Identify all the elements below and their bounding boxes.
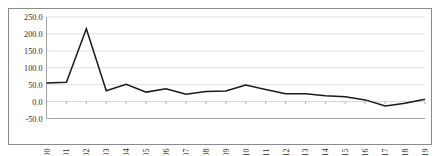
x-tick-label: 2010 bbox=[242, 149, 251, 156]
x-tick-label: 2017 bbox=[381, 149, 390, 156]
x-tick-label: 2003 bbox=[102, 149, 111, 156]
chart-figure: 250.0200.0150.0100.050.00.0-50.0 2000200… bbox=[0, 0, 441, 155]
x-tick-label: 2008 bbox=[202, 149, 211, 156]
x-tick-label: 2019 bbox=[421, 149, 430, 156]
y-tick-label: 50.0 bbox=[28, 81, 42, 90]
x-tick-label: 2000 bbox=[43, 149, 52, 156]
x-tick-label: 2012 bbox=[282, 149, 291, 156]
y-tick-label: 200.0 bbox=[24, 30, 42, 39]
x-tick-label: 2007 bbox=[182, 149, 191, 156]
y-tick-label: 0.0 bbox=[32, 98, 42, 107]
line-chart: 250.0200.0150.0100.050.00.0-50.0 2000200… bbox=[0, 0, 441, 155]
x-tick-label: 2011 bbox=[262, 149, 271, 156]
chart-svg: 250.0200.0150.0100.050.00.0-50.0 2000200… bbox=[0, 0, 441, 155]
x-tick-label: 2005 bbox=[142, 149, 151, 156]
x-tick-label: 2016 bbox=[361, 149, 370, 156]
x-tick-label: 2004 bbox=[122, 149, 131, 156]
y-tick-label: 150.0 bbox=[24, 47, 42, 56]
x-tick-label: 2014 bbox=[321, 149, 330, 156]
x-tick-label: 2006 bbox=[162, 149, 171, 156]
x-tick-label: 2018 bbox=[401, 149, 410, 156]
x-tick-label: 2002 bbox=[82, 149, 91, 156]
x-tick-label: 2013 bbox=[301, 149, 310, 156]
y-axis-tick-labels: 250.0200.0150.0100.050.00.0-50.0 bbox=[24, 13, 42, 124]
x-axis-tick-labels: 2000200120022003200420052006200720082009… bbox=[43, 149, 431, 156]
gridlines-group bbox=[47, 17, 426, 102]
x-tick-label: 2001 bbox=[62, 149, 71, 156]
y-tick-label: -50.0 bbox=[25, 115, 42, 124]
y-tick-label: 100.0 bbox=[24, 64, 42, 73]
y-tick-label: 250.0 bbox=[24, 13, 42, 22]
x-tick-label: 2009 bbox=[222, 149, 231, 156]
x-tick-label: 2015 bbox=[341, 149, 350, 156]
